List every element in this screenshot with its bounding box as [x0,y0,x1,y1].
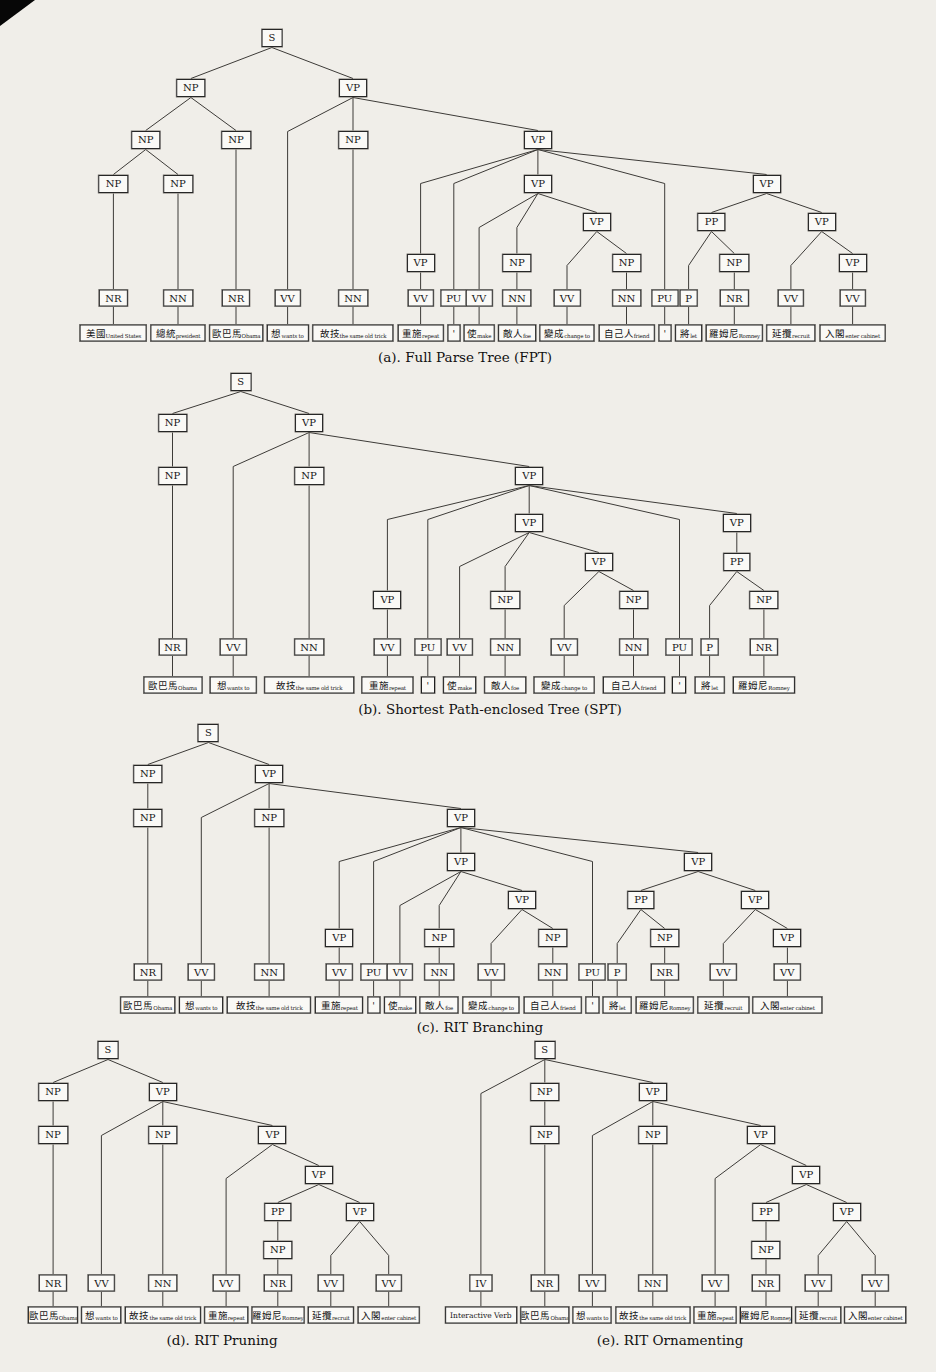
tree-edge [191,48,272,79]
parse-node-box: VP [295,414,323,432]
tree-edge [331,1222,360,1275]
parse-node-box: S [98,1041,119,1059]
leaf-word-text: ' [452,328,455,338]
leaf-gloss-text: change to [561,685,587,693]
leaf-word-box: 羅姆尼Romney [635,997,694,1014]
pos-tag-box: NN [619,639,649,656]
tree-caption: (c). RIT Branching [417,1019,544,1035]
pos-tag-label: VV [380,641,394,652]
parse-node-box: NP [619,591,648,609]
parse-node-label: NP [301,470,316,481]
parse-node-box: VP [524,131,552,149]
leaf-gloss-text: Romney [768,685,789,693]
leaf-word-box: 故技the same old trick [312,325,393,342]
leaf-gloss-text: Obama [59,1315,78,1323]
leaf-word-box: ' [421,677,435,694]
pos-tag-label: VV [226,641,240,652]
pos-tag-box: VV [778,290,804,307]
tree-edge [818,1222,847,1275]
pos-tag-label: NR [140,966,156,977]
parse-node-box: NP [158,467,187,485]
tree-edge [53,1060,108,1083]
pos-tag-box: VV [274,290,300,307]
tree-edge [108,1060,163,1083]
leaf-gloss-text: friend [641,685,657,693]
pos-tag-label: VV [845,292,859,303]
pos-tag-box: NN [538,964,568,981]
leaf-word-text: 入閣 [760,1000,780,1010]
pos-tag-box: VV [375,1275,401,1292]
parse-node-label: VP [302,417,316,428]
leaf-word-box: 羅姆尼Romney [251,1307,304,1324]
tree-edge [791,232,822,290]
pos-tag-label: VV [280,292,294,303]
pos-tag-label: NN [260,966,278,977]
pos-tag-box: P [608,964,627,981]
tree-edge [272,1145,318,1166]
parse-node-label: NP [758,1244,773,1255]
parse-node-box: VP [524,175,552,193]
tree-edge [233,433,309,639]
pos-tag-label: VV [557,641,571,652]
pos-tag-label: IV [475,1277,486,1288]
tree-edge [529,533,599,553]
parse-node-label: S [269,32,276,43]
parse-node-label: PP [271,1206,284,1217]
leaf-word-box: 將let [675,325,703,342]
parse-node-box: VP [753,175,781,193]
parse-node-box: PP [723,553,750,571]
leaf-word-box: 想wants to [266,325,308,342]
pos-tag-box: PU [414,639,441,656]
leaf-word-box: 敵人foe [498,325,536,342]
parse-node-label: NP [345,134,360,145]
parse-node-box: NP [221,131,250,149]
leaf-word-text: 重施 [369,680,389,690]
leaf-gloss-text: enter cabinet [381,1315,416,1323]
leaf-word-text: 將 [701,680,711,690]
tree-edge [146,98,191,131]
parse-node-label: NP [228,134,243,145]
pos-tag-label: NN [544,966,562,977]
pos-tag-label: VV [413,292,427,303]
figure-parse-trees: NR美國United StatesNPNN總統presidentNPNPNR歐巴… [0,0,936,1372]
pos-tag-label: NN [300,641,318,652]
parse-node-box: NP [538,929,567,947]
pos-tag-box: PU [360,964,387,981]
parse-node-label: NP [756,594,771,605]
parse-node-box: NP [749,591,778,609]
pos-tag-box: NN [490,639,520,656]
leaf-word-text: 使 [388,1000,398,1010]
leaf-word-box: 重施repeat [204,1307,248,1324]
leaf-word-box: 想wants to [210,677,257,694]
parse-node-box: NP [751,1241,780,1259]
leaf-gloss-text: recruit [332,1315,350,1323]
parse-node-box: NP [163,175,192,193]
pos-tag-label: NR [228,292,244,303]
parse-node-box: VP [747,1126,775,1144]
leaf-word-box: 重施repeat [362,677,413,694]
leaf-word-box: 故技the same old trick [227,997,311,1014]
leaf-word-text: ' [678,680,681,690]
leaf-word-text: 想 [185,1000,195,1010]
parse-node-label: NP [537,1129,552,1140]
pos-tag-label: VV [219,1277,233,1288]
parse-node-label: VP [691,856,705,867]
parse-node-label: VP [380,594,394,605]
parse-node-box: VP [515,467,543,485]
leaf-word-text: 故技 [320,328,340,338]
tree-edge [191,98,236,131]
leaf-gloss-text: let [619,1005,626,1013]
leaf-word-box: 歐巴馬Obama [520,1307,569,1324]
parse-node-label: VP [748,894,762,905]
pos-tag-label: VV [194,966,208,977]
parse-node-box: NP [38,1083,67,1101]
parse-node-label: VP [840,1206,854,1217]
leaf-word-box: 歐巴馬Obama [209,325,263,342]
parse-node-box: VP [258,1126,286,1144]
pos-tag-label: NN [625,641,643,652]
leaf-word-text: 想 [85,1310,95,1320]
parse-node-label: VP [592,556,606,567]
leaf-gloss-text: foe [445,1005,453,1013]
parse-node-label: NP [270,1244,285,1255]
parse-node-box: NP [148,1126,177,1144]
